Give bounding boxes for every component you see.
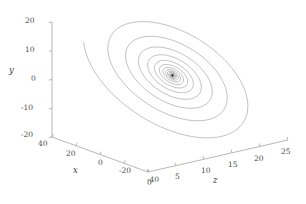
y-tick xyxy=(49,51,52,52)
y-tick-label: 20 xyxy=(25,17,35,25)
y-tick xyxy=(49,80,52,81)
y-tick-label: -10 xyxy=(21,104,33,112)
y-tick xyxy=(49,22,52,23)
y-tick xyxy=(49,137,52,138)
z-tick-label: 10 xyxy=(201,167,211,175)
z-tick-label: 20 xyxy=(254,155,264,163)
x-tick-label: 0 xyxy=(98,159,103,167)
z-axis-line xyxy=(148,140,288,172)
axis-ticks xyxy=(49,22,288,172)
z-tick-label: 5 xyxy=(175,173,180,181)
x-tick xyxy=(76,143,77,146)
z-tick-label: 15 xyxy=(228,161,238,169)
y-axis-label: y xyxy=(9,66,14,74)
x-tick xyxy=(100,152,101,155)
x-tick-label: 40 xyxy=(38,140,48,148)
y-tick xyxy=(49,108,52,109)
z-tick xyxy=(259,143,260,146)
z-tick xyxy=(287,137,288,140)
z-tick-label: 25 xyxy=(281,148,291,156)
z-tick xyxy=(203,156,204,159)
plot-canvas xyxy=(0,0,306,204)
attractor-trajectory-path xyxy=(84,22,248,138)
y-tick-label: 0 xyxy=(31,75,36,83)
trajectory-curve xyxy=(84,22,248,138)
axis-lines xyxy=(52,22,288,172)
x-axis-label: x xyxy=(73,166,78,174)
x-tick-label: 20 xyxy=(66,150,76,158)
z-tick xyxy=(231,150,232,153)
z-axis-label: z xyxy=(213,176,217,184)
y-tick-label: 10 xyxy=(25,46,35,54)
x-tick-label: -20 xyxy=(119,167,131,175)
z-tick xyxy=(175,163,176,166)
attractor-figure: 20100-10-2040200-20-400510152025yxz xyxy=(0,0,306,204)
x-tick xyxy=(124,160,125,163)
y-tick-label: -20 xyxy=(21,131,33,139)
z-tick-label: 0 xyxy=(147,179,152,187)
